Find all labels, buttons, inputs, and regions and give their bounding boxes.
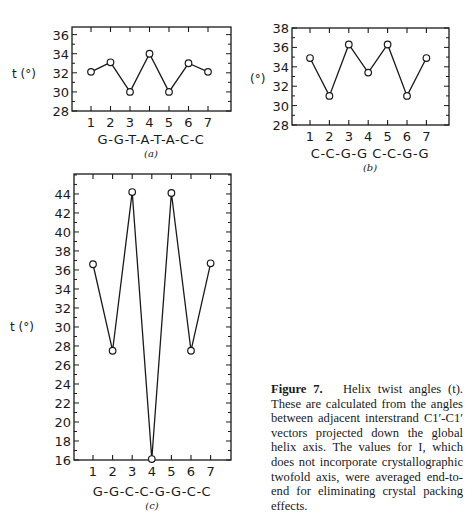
data-point-marker bbox=[307, 55, 314, 62]
sequence-label: C-C-G-G C-C-G-G bbox=[311, 146, 429, 161]
panel-label: (c) bbox=[145, 500, 159, 511]
x-tick-label: 4 bbox=[148, 464, 156, 479]
sequence-label: G-G-T-A-T-A-C-C bbox=[98, 132, 205, 147]
x-tick-label: 1 bbox=[87, 115, 95, 130]
y-tick-label: 28 bbox=[52, 104, 69, 119]
x-tick-label: 2 bbox=[325, 129, 333, 144]
y-tick-label: 34 bbox=[54, 282, 71, 297]
y-tick-label: 30 bbox=[272, 99, 289, 114]
x-tick-label: 2 bbox=[108, 464, 116, 479]
caption-label: Figure 7. bbox=[271, 382, 323, 396]
data-point-marker bbox=[166, 89, 173, 96]
data-point-marker bbox=[404, 93, 411, 100]
data-point-marker bbox=[88, 69, 95, 76]
y-tick-label: 44 bbox=[54, 187, 71, 202]
x-tick-label: 2 bbox=[106, 115, 114, 130]
y-axis-title: t (°) bbox=[12, 67, 36, 81]
y-tick-label: 42 bbox=[54, 206, 71, 221]
y-tick-label: 26 bbox=[54, 358, 71, 373]
caption-text: Helix twist angles (t). These are calcul… bbox=[271, 382, 463, 513]
y-tick-label: 32 bbox=[52, 66, 69, 81]
data-point-marker bbox=[384, 41, 391, 48]
plot-frame bbox=[292, 28, 449, 125]
y-tick-label: 30 bbox=[52, 85, 69, 100]
data-point-marker bbox=[185, 60, 192, 67]
y-tick-label: 18 bbox=[54, 434, 71, 449]
figure-caption: Figure 7. Helix twist angles (t). These … bbox=[271, 382, 463, 513]
chart-panel-b: 1234567283032343638(°)C-C-G-G C-C-G-G(b) bbox=[250, 21, 449, 173]
x-tick-label: 3 bbox=[345, 129, 353, 144]
data-point-marker bbox=[149, 456, 156, 463]
x-tick-label: 5 bbox=[167, 464, 175, 479]
x-tick-label: 4 bbox=[145, 115, 153, 130]
panel-label: (b) bbox=[363, 162, 377, 173]
data-point-marker bbox=[129, 189, 136, 196]
sequence-label: G-G-C-C-G-G-C-C bbox=[93, 484, 211, 499]
y-tick-label: 20 bbox=[54, 415, 71, 430]
y-tick-label: 32 bbox=[272, 79, 289, 94]
data-point-marker bbox=[188, 347, 195, 354]
y-axis-title: (°) bbox=[250, 72, 265, 86]
data-line bbox=[93, 192, 211, 459]
x-tick-label: 7 bbox=[206, 464, 214, 479]
data-point-marker bbox=[423, 55, 430, 62]
data-point-marker bbox=[205, 69, 212, 76]
x-tick-label: 1 bbox=[89, 464, 97, 479]
data-point-marker bbox=[365, 69, 372, 76]
x-tick-label: 6 bbox=[184, 115, 192, 130]
y-tick-label: 36 bbox=[54, 263, 71, 278]
data-point-marker bbox=[109, 347, 116, 354]
x-tick-label: 6 bbox=[403, 129, 411, 144]
y-tick-label: 22 bbox=[54, 396, 71, 411]
data-point-marker bbox=[107, 59, 114, 66]
y-tick-label: 40 bbox=[54, 225, 71, 240]
y-tick-label: 30 bbox=[54, 320, 71, 335]
data-point-marker bbox=[90, 261, 97, 268]
x-tick-label: 7 bbox=[422, 129, 430, 144]
y-tick-label: 36 bbox=[52, 28, 69, 43]
y-tick-label: 34 bbox=[272, 60, 289, 75]
chart-panel-c: 1234567161820222426283032343638404244t (… bbox=[10, 174, 231, 511]
x-tick-label: 6 bbox=[187, 464, 195, 479]
y-tick-label: 28 bbox=[272, 118, 289, 133]
data-point-marker bbox=[346, 41, 353, 48]
y-axis-title: t (°) bbox=[10, 320, 34, 334]
y-tick-label: 34 bbox=[52, 47, 69, 62]
data-point-marker bbox=[127, 89, 134, 96]
panel-label: (a) bbox=[144, 148, 158, 159]
x-tick-label: 5 bbox=[383, 129, 391, 144]
x-tick-label: 5 bbox=[165, 115, 173, 130]
y-tick-label: 38 bbox=[54, 244, 71, 259]
x-tick-label: 7 bbox=[204, 115, 212, 130]
y-tick-label: 28 bbox=[54, 339, 71, 354]
data-point-marker bbox=[207, 260, 214, 267]
chart-panel-a: 12345672830323436t (°)G-G-T-A-T-A-C-C(a) bbox=[12, 27, 231, 159]
y-tick-label: 16 bbox=[54, 453, 71, 468]
x-tick-label: 3 bbox=[128, 464, 136, 479]
data-point-marker bbox=[146, 50, 153, 57]
y-tick-label: 36 bbox=[272, 40, 289, 55]
data-point-marker bbox=[326, 93, 333, 100]
plot-frame bbox=[74, 174, 231, 460]
y-tick-label: 38 bbox=[272, 21, 289, 36]
x-tick-label: 4 bbox=[364, 129, 372, 144]
data-point-marker bbox=[168, 190, 175, 197]
x-tick-label: 1 bbox=[306, 129, 314, 144]
y-tick-label: 32 bbox=[54, 301, 71, 316]
y-tick-label: 24 bbox=[54, 377, 71, 392]
x-tick-label: 3 bbox=[126, 115, 134, 130]
